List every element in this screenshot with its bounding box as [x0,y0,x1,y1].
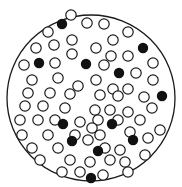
open-circle [123,27,133,37]
filled-circle [34,58,44,68]
filled-circle [138,43,148,53]
open-circle [27,75,37,85]
open-circle [82,18,92,28]
filled-circle [128,135,138,145]
open-circle [115,145,125,155]
open-circle [19,60,29,70]
open-circle [73,81,83,91]
filled-circle [58,119,68,129]
open-circle [53,143,63,153]
open-circle [31,43,41,53]
open-circle [49,40,59,50]
open-circle [113,91,123,101]
open-circle [155,125,165,135]
open-circle [123,84,133,94]
open-circle [35,155,45,165]
open-circle [23,88,33,98]
open-circle [123,167,133,177]
filled-circle [81,59,91,69]
open-circle [106,51,116,61]
open-circle [131,68,141,78]
open-circle [123,51,133,61]
open-circle [66,10,76,20]
open-circle [105,105,115,115]
open-circle [38,101,48,111]
open-circle [99,19,109,29]
open-circle [120,157,130,167]
filled-circle [93,146,103,156]
open-circle [135,115,145,125]
open-circle [65,89,75,99]
open-circle [57,167,67,177]
open-circle [53,73,63,83]
open-circle [65,155,75,165]
open-circle [17,130,27,140]
open-circle [83,135,93,145]
open-circle [60,103,70,113]
open-circle [95,130,105,140]
open-circle [20,101,30,111]
open-circle [99,60,109,70]
open-circle [143,133,153,143]
open-circle [43,27,53,37]
open-circle [98,170,108,180]
open-circle [140,150,150,160]
open-circle [67,35,77,45]
filled-circle [107,119,117,129]
open-circle [67,49,77,59]
filled-circle [114,68,124,78]
open-circle [85,157,95,167]
open-circle [75,117,85,127]
open-circle [91,43,101,53]
open-circle [148,75,158,85]
open-circle [95,90,105,100]
open-circle [45,88,55,98]
open-circle [105,155,115,165]
open-circle [108,35,118,45]
open-circle [148,58,158,68]
open-circle [43,130,53,140]
circle-field-diagram [0,0,182,187]
open-circle [75,167,85,177]
open-circle [50,58,60,68]
open-circle [123,107,133,117]
open-circle [33,115,43,125]
filled-circle [57,19,67,29]
open-circle [147,103,157,113]
open-circle [27,143,37,153]
filled-circle [157,91,167,101]
open-circle [90,105,100,115]
filled-circle [67,136,77,146]
open-circle [139,92,149,102]
filled-circle [86,173,96,183]
open-circle [15,115,25,125]
open-circle [91,75,101,85]
